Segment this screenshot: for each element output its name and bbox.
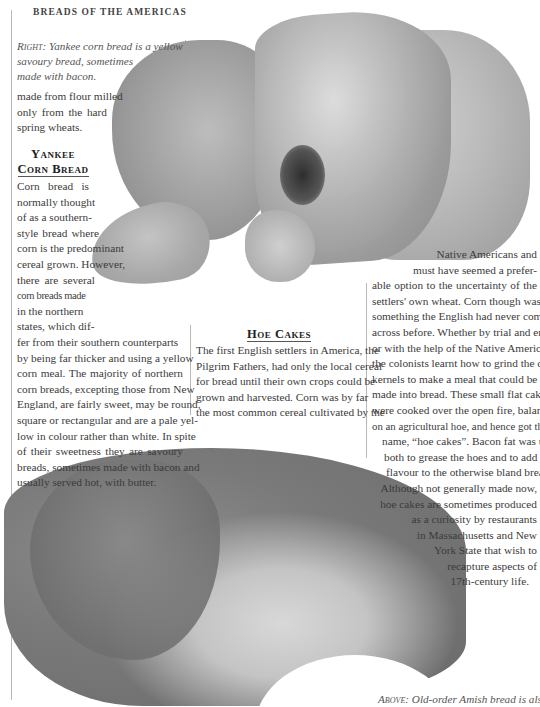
heading-text: Hoe Cakes	[247, 327, 311, 342]
hoe-cakes-col1: The first English settlers in America, t…	[196, 343, 362, 421]
body-line: name, “hoe cakes”. Bacon fat was used	[382, 434, 537, 450]
body-line: hoe cakes are sometimes produced	[372, 497, 537, 513]
body-line: for bread until their own crops could be	[196, 374, 362, 390]
body-line: The first English settlers in America, t…	[196, 343, 362, 359]
body-line: Native Americans and	[372, 247, 537, 263]
body-line: on an agricultural hoe, and hence got th…	[372, 419, 537, 435]
body-line: of as a southern-	[17, 210, 97, 226]
caption-line: made with bacon.	[17, 69, 187, 84]
body-line: were cooked over the open fire, balanced	[372, 403, 537, 419]
heading-line: Corn Bread	[18, 162, 89, 177]
body-line: both to grease the hoes and to add	[384, 450, 537, 466]
body-line: made into bread. These small flat cakes	[372, 387, 537, 403]
body-line: Although not generally made now,	[372, 481, 537, 497]
body-line: square or rectangular and are a pale yel…	[17, 413, 183, 429]
running-head: BREADS OF THE AMERICAS	[33, 7, 187, 17]
hoe-cakes-col2: Native Americans and must have seemed a …	[372, 247, 537, 590]
body-line: usually served hot, with butter.	[17, 475, 183, 491]
body-line: corn breads, excepting those from New	[17, 382, 183, 398]
body-line: corn meal. The majority of northern	[17, 366, 183, 382]
body-line: in the northern	[17, 304, 87, 320]
body-line: kernels to make a meal that could be	[372, 372, 537, 388]
caption-line: savoury bread, sometimes	[17, 54, 187, 69]
body-line: style bread where	[17, 226, 99, 242]
caption-amish-bread: Above: Old-order Amish bread is also	[378, 692, 538, 707]
heading-yankee-corn-bread: Yankee Corn Bread	[17, 147, 89, 177]
caption-lead: Above:	[378, 693, 409, 705]
body-line: low in colour rather than white. In spit…	[17, 429, 183, 445]
body-line: grown and harvested. Corn was by far	[196, 390, 362, 406]
body-line: normally thought	[17, 195, 89, 211]
cornbread-crumb-small	[245, 210, 315, 282]
heading-line: Yankee	[17, 147, 89, 162]
body-line: made from flour milled	[17, 89, 107, 105]
body-line: something the English had never come	[372, 309, 537, 325]
body-line: or with the help of the Native Americans…	[372, 341, 537, 357]
body-line: breads, sometimes made with bacon and	[17, 460, 183, 476]
caption-text: Old-order Amish bread is also	[412, 693, 540, 705]
caption-lead: Right:	[17, 40, 46, 52]
yankee-body: Corn bread is normally thought of as a s…	[17, 179, 183, 491]
body-line: Corn bread is	[17, 179, 89, 195]
body-line: in Massachusetts and New	[372, 528, 537, 544]
body-line: able option to the uncertainty of the	[372, 278, 537, 294]
body-line: Pilgrim Fathers, had only the local cere…	[196, 359, 362, 375]
body-line: states, which dif-	[17, 319, 92, 335]
body-line: only from the hard	[17, 105, 107, 121]
body-line: 17th-century life.	[372, 574, 537, 590]
body-line: by being far thicker and using a yellow	[17, 351, 183, 367]
caption-line: Yankee corn bread is a yellow	[49, 40, 183, 52]
body-line: across before. Whether by trial and erro…	[372, 325, 537, 341]
body-line: corn breads made	[17, 288, 87, 304]
body-line: flavour to the otherwise bland breads.	[386, 465, 537, 481]
body-line: spring wheats.	[17, 120, 107, 136]
body-line: recapture aspects of	[372, 559, 537, 575]
heading-hoe-cakes: Hoe Cakes	[196, 327, 362, 342]
body-line: of their sweetness they are savoury	[17, 444, 183, 460]
body-line: as a curiosity by restaurants	[372, 512, 537, 528]
body-line: the most common cereal cultivated by the	[196, 405, 362, 421]
intro-continuation: made from flour milled only from the har…	[17, 89, 107, 136]
body-line: York State that wish to	[372, 543, 537, 559]
body-line: settlers' own wheat. Corn though was	[372, 294, 537, 310]
body-line: cereal grown. However,	[17, 257, 121, 273]
body-line: fer from their southern counterparts	[17, 335, 183, 351]
body-line: there are several	[17, 273, 95, 289]
body-line: England, are fairly sweet, may be round,	[17, 397, 183, 413]
caption-yankee-corn-bread: Right: Yankee corn bread is a yellow sav…	[17, 39, 187, 83]
body-line: the colonists learnt how to grind the co…	[372, 356, 537, 372]
body-line: must have seemed a prefer-	[372, 263, 537, 279]
body-line: corn is the predominant	[17, 241, 121, 257]
cornbread-crumb-hole	[280, 145, 325, 205]
